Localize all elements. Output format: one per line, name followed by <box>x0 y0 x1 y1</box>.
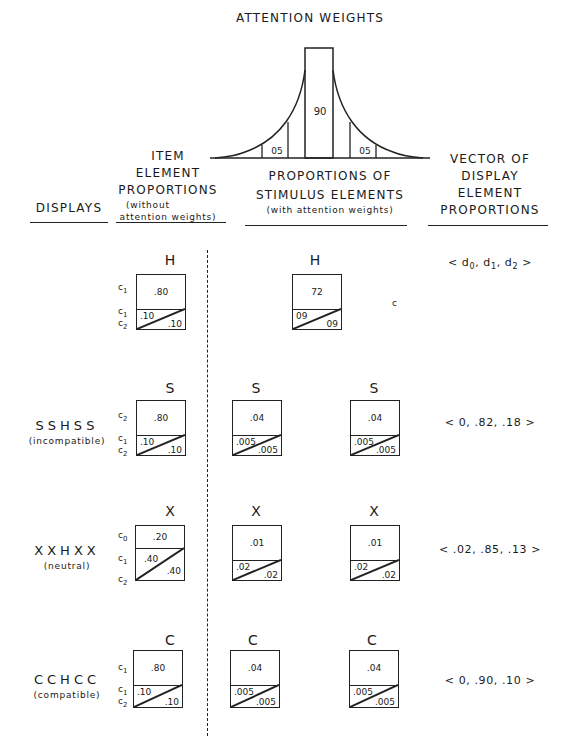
display-sublabel: (compatible) <box>20 690 114 700</box>
stimulus-letter: S <box>354 380 394 396</box>
stimulus-proportion-box: 72 09 09 <box>292 274 342 330</box>
item-letter: H <box>150 252 190 268</box>
attention-weights-title: ATTENTION WEIGHTS <box>230 10 390 27</box>
header-displays-rule <box>30 222 108 223</box>
header-item-element-proportions: ITEM ELEMENT PROPORTIONS (without attent… <box>112 148 224 223</box>
item-label-c1: c1 <box>118 282 127 295</box>
item-letter: C <box>150 632 190 648</box>
item-proportion-box: .80 .10 .10 <box>136 274 186 330</box>
box-bottom-right-value: .40 <box>167 566 181 576</box>
item-label-c1: c1 <box>118 433 127 446</box>
stimulus-proportion-box: .01 .02 .02 <box>350 525 400 581</box>
stimulus-proportion-box: .04 .005 .005 <box>232 400 282 456</box>
stimulus-proportion-box: .04 .005 .005 <box>350 400 400 456</box>
item-label-c2: c2 <box>118 445 127 458</box>
box-bottom-left-value: .10 <box>137 687 151 697</box>
header-vector-line1: VECTOR OF <box>428 151 552 168</box>
display-vector: < 0, .90, .10 > <box>430 674 550 687</box>
display-vector-generic: < d0, d1, d2 > <box>430 256 550 271</box>
box-bottom-left-value: .02 <box>236 562 250 572</box>
stray-mark: c <box>392 298 397 308</box>
header-stimulus-sub: (with attention weights) <box>240 204 420 216</box>
header-stimulus-element-proportions: PROPORTIONS OF STIMULUS ELEMENTS (with a… <box>240 168 420 216</box>
attention-weight-left: 05 <box>265 146 289 156</box>
box-bottom-right-value: .005 <box>258 445 278 455</box>
item-label-c2: c2 <box>118 410 127 423</box>
box-bottom-right-value: .005 <box>256 697 276 707</box>
header-item-line1: ITEM <box>112 148 224 165</box>
stimulus-letter: C <box>352 632 392 648</box>
attention-weights-curve <box>200 40 430 165</box>
item-proportion-box: .20 .40 .40 <box>135 525 185 581</box>
dashed-divider <box>207 250 208 736</box>
stimulus-letter: H <box>295 252 335 268</box>
box-bottom-left-value: 09 <box>296 311 307 321</box>
header-item-line3: PROPORTIONS <box>112 182 224 199</box>
display-vector: < 0, .82, .18 > <box>430 416 550 429</box>
stimulus-letter: X <box>354 503 394 519</box>
box-bottom-right-value: .10 <box>168 445 182 455</box>
box-bottom-right-value: .10 <box>165 697 179 707</box>
box-bottom-left-value: .005 <box>236 437 256 447</box>
stimulus-letter: S <box>236 380 276 396</box>
item-label-c1: c1 <box>118 306 127 319</box>
item-label-c0: c0 <box>118 530 127 543</box>
box-bottom-left-value: .02 <box>354 562 368 572</box>
stimulus-proportion-box: .04 .005 .005 <box>349 650 399 708</box>
item-proportion-box: .80 .10 .10 <box>133 650 183 708</box>
item-label-c1: c1 <box>118 553 127 566</box>
header-vector-line3: ELEMENT <box>428 185 552 202</box>
box-bottom-left-value: .40 <box>144 554 158 564</box>
header-vector-rule <box>428 225 548 226</box>
item-label-c2: c2 <box>118 318 127 331</box>
box-bottom-left-value: .10 <box>140 437 154 447</box>
header-item-sub1: (without <box>112 199 224 211</box>
box-bottom-left-value: .10 <box>140 311 154 321</box>
item-letter: X <box>150 503 190 519</box>
stimulus-letter: C <box>233 632 273 648</box>
header-stimulus-rule <box>245 225 407 226</box>
attention-weight-center: 90 <box>305 106 335 117</box>
header-stimulus-line1: PROPORTIONS OF <box>240 168 420 185</box>
box-bottom-right-value: .02 <box>264 570 278 580</box>
header-item-line2: ELEMENT <box>112 165 224 182</box>
item-label-c2: c2 <box>118 696 127 709</box>
display-vector: < .02, .85, .13 > <box>430 543 550 556</box>
item-label-c1: c1 <box>118 684 127 697</box>
header-stimulus-line2: STIMULUS ELEMENTS <box>240 187 420 204</box>
display-label: XXHXX <box>22 543 112 558</box>
box-bottom-right-value: .10 <box>168 319 182 329</box>
item-label-c1: c1 <box>118 662 127 675</box>
header-vector-line2: DISPLAY <box>428 168 552 185</box>
header-vector-display-proportions: VECTOR OF DISPLAY ELEMENT PROPORTIONS <box>428 151 552 219</box>
stimulus-proportion-box: .04 .005 .005 <box>230 650 280 708</box>
item-letter: S <box>150 380 190 396</box>
box-bottom-left-value: .005 <box>234 687 254 697</box>
header-item-rule <box>116 222 226 223</box>
item-proportion-box: .80 .10 .10 <box>136 400 186 456</box>
item-label-c2: c2 <box>118 574 127 587</box>
attention-weight-right: 05 <box>353 146 377 156</box>
stimulus-letter: X <box>236 503 276 519</box>
box-bottom-right-value: 09 <box>327 319 338 329</box>
header-displays: DISPLAYS <box>28 200 110 217</box>
box-bottom-right-value: .005 <box>376 445 396 455</box>
box-bottom-left-value: .005 <box>353 687 373 697</box>
box-bottom-right-value: .02 <box>382 570 396 580</box>
stimulus-proportion-box: .01 .02 .02 <box>232 525 282 581</box>
header-vector-line4: PROPORTIONS <box>428 202 552 219</box>
box-bottom-left-value: .005 <box>354 437 374 447</box>
box-bottom-right-value: .005 <box>375 697 395 707</box>
display-sublabel: (neutral) <box>20 561 114 571</box>
display-label: SSHSS <box>22 418 112 433</box>
display-sublabel: (incompatible) <box>20 436 114 446</box>
display-label: CCHCC <box>22 672 112 687</box>
